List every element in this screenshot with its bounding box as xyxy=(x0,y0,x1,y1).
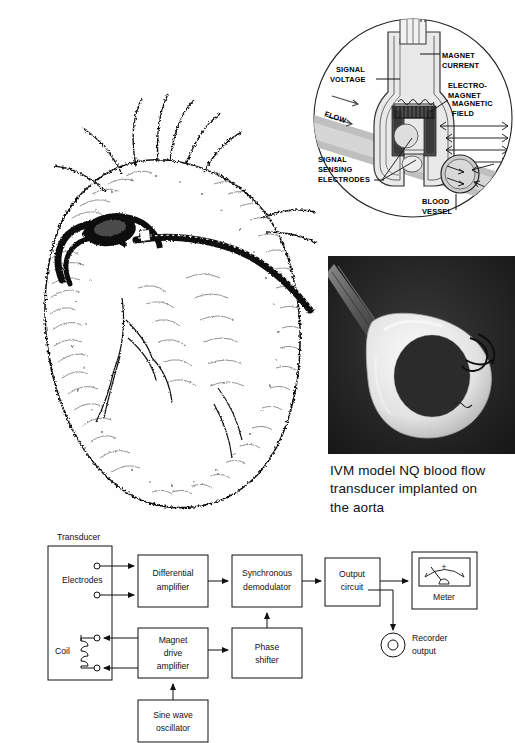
phase-shifter-label-line1: Phase xyxy=(255,642,280,652)
label-magnet-current-line2: CURRENT xyxy=(442,61,480,70)
photo-caption-line1: IVM model NQ blood flow xyxy=(330,462,515,480)
sine-wave-oscillator-label-line2: oscillator xyxy=(156,723,190,733)
figure-page: SIGNAL VOLTAGE MAGNET CURRENT ELECTRO- M… xyxy=(0,0,515,743)
meter-label: Meter xyxy=(433,592,455,602)
coil-terminal-bottom xyxy=(94,665,100,671)
output-circuit-label-line2: circuit xyxy=(341,582,364,592)
transducer-cutaway-diagram: SIGNAL VOLTAGE MAGNET CURRENT ELECTRO- M… xyxy=(312,14,515,226)
heart-body xyxy=(45,160,300,508)
meter-plus-sign: + xyxy=(442,562,447,572)
label-magnetic-field-line2: FIELD xyxy=(452,109,475,118)
output-circuit-label-line1: Output xyxy=(339,569,365,579)
differential-amplifier-label-line2: amplifier xyxy=(157,582,190,592)
label-magnetic-field-line1: MAGNETIC xyxy=(452,99,493,108)
label-sensing-electrodes-line1: SIGNAL xyxy=(318,155,347,164)
transducer-label: Transducer xyxy=(57,532,100,542)
coil-label: Coil xyxy=(55,646,70,656)
heart-illustration xyxy=(18,88,318,518)
box-phase-shifter xyxy=(232,628,302,678)
photo-caption: IVM model NQ blood flow transducer impla… xyxy=(330,462,515,517)
magnet-drive-amplifier-label-line3: amplifier xyxy=(157,661,190,671)
label-electromagnet-line1: ELECTRO- xyxy=(448,81,487,90)
label-blood-vessel-line2: VESSEL xyxy=(422,207,452,216)
phase-shifter-label-line2: shifter xyxy=(255,655,279,665)
magnet-drive-amplifier-label-line2: drive xyxy=(164,648,183,658)
label-sensing-electrodes-line3: ELECTRODES xyxy=(318,175,370,184)
recorder-output-label-line2: output xyxy=(412,646,437,656)
differential-amplifier-label-line1: Differential xyxy=(153,568,194,578)
photo-caption-line3: the aorta xyxy=(330,499,515,517)
photo-caption-line2: transducer implanted on xyxy=(330,480,515,498)
sine-wave-oscillator-label-line1: Sine wave xyxy=(153,710,193,720)
recorder-output-jack-inner xyxy=(388,640,398,650)
electrodes-label: Electrodes xyxy=(62,575,103,585)
magnet-drive-amplifier-label-line1: Magnet xyxy=(159,635,188,645)
lead-tube xyxy=(400,16,426,44)
system-block-diagram: Transducer Electrodes Coil Differential … xyxy=(0,520,515,743)
electrode-terminal-bottom xyxy=(94,592,100,598)
label-sensing-electrodes-line2: SENSING xyxy=(318,165,352,174)
label-blood-vessel-line1: BLOOD xyxy=(422,197,450,206)
label-signal-voltage-line1: SIGNAL xyxy=(336,65,365,74)
box-synchronous-demodulator xyxy=(232,555,302,607)
recorder-output-label-line1: Recorder xyxy=(412,633,447,643)
label-signal-voltage-line2: VOLTAGE xyxy=(330,75,366,84)
synchronous-demodulator-label-line2: demodulator xyxy=(243,582,291,592)
electrode-terminal-top xyxy=(94,563,100,569)
box-differential-amplifier xyxy=(138,555,208,607)
box-sine-wave-oscillator xyxy=(138,700,208,742)
coil-terminal-top xyxy=(94,635,100,641)
label-magnet-current-line1: MAGNET xyxy=(442,51,475,60)
synchronous-demodulator-label-line1: Synchronous xyxy=(242,568,292,578)
transducer-photograph xyxy=(328,256,515,454)
